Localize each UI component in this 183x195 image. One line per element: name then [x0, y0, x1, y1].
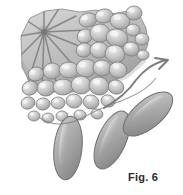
cell-body: [42, 113, 54, 123]
radial-focal-halo: [38, 26, 51, 39]
cell-body: [135, 33, 149, 45]
cell-body: [137, 50, 149, 60]
cell-28: [51, 97, 65, 109]
cell-highlight: [137, 35, 142, 39]
cell-highlight: [128, 26, 133, 30]
cell-8: [135, 33, 149, 45]
cell-body: [19, 95, 36, 111]
cell-30: [82, 93, 101, 110]
cell-body: [82, 93, 101, 110]
cell-highlight: [53, 99, 58, 103]
figure-container: Fig. 6: [0, 0, 183, 195]
cell-27: [35, 97, 50, 110]
appendage-body: [51, 115, 86, 182]
cell-13: [137, 50, 149, 60]
cell-body: [126, 6, 142, 20]
cell-body: [53, 79, 73, 95]
cell-32: [28, 111, 40, 121]
cell-highlight: [44, 114, 49, 117]
cell-body: [28, 111, 40, 121]
cell-body: [65, 93, 82, 109]
figure-illustration: [0, 0, 183, 195]
cell-body: [90, 108, 104, 120]
cell-highlight: [139, 51, 144, 54]
figure-caption: Fig. 6: [112, 171, 174, 184]
cell-highlight: [58, 112, 63, 115]
cell-3: [126, 6, 142, 20]
cell-29: [65, 93, 82, 109]
cell-body: [35, 97, 50, 110]
cell-22: [53, 79, 73, 95]
cell-26: [19, 95, 36, 111]
cell-33: [42, 113, 54, 123]
appendage-left: [51, 115, 86, 182]
cell-highlight: [128, 8, 134, 13]
cell-body: [51, 97, 65, 109]
cell-highlight: [30, 112, 35, 115]
cell-36: [90, 108, 104, 120]
cell-highlight: [56, 81, 64, 86]
